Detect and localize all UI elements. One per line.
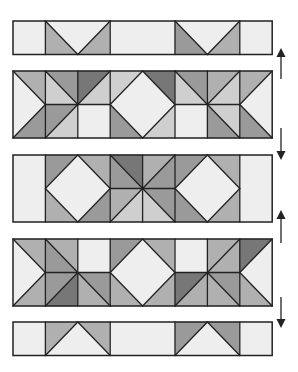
quilt-patch <box>13 155 45 222</box>
row-3-center <box>13 155 272 222</box>
quilt-patch <box>240 21 272 55</box>
quilt-patch <box>240 155 272 222</box>
quilt-rows <box>13 21 272 356</box>
quilt-diagram: Quilt border rows assembly diagram <box>0 0 298 372</box>
assembly-arrows <box>277 48 286 328</box>
quilt-patch <box>110 21 175 55</box>
quilt-patch <box>78 239 110 273</box>
quilt-patch <box>240 322 272 356</box>
quilt-patch <box>175 105 207 139</box>
arrow-up-1-icon <box>277 48 286 79</box>
quilt-patch <box>13 322 45 356</box>
arrow-down-2-icon <box>277 297 286 328</box>
quilt-patch <box>78 105 110 139</box>
row-4 <box>13 239 272 306</box>
quilt-patch <box>175 239 207 273</box>
quilt-patch <box>110 322 175 356</box>
quilt-diagram-canvas: Quilt border rows assembly diagram <box>0 0 298 372</box>
row-5-bottom-border <box>13 322 272 356</box>
row-1-top-border <box>13 21 272 55</box>
arrow-up-2-icon <box>277 210 286 243</box>
row-2 <box>13 71 272 138</box>
arrow-down-1-icon <box>277 128 286 160</box>
quilt-patch <box>13 21 45 55</box>
